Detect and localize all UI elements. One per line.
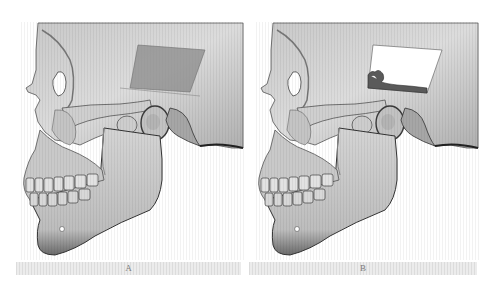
- skull-render-b: [247, 0, 493, 260]
- caption-bar-a: A: [16, 262, 241, 275]
- figure-panel-a: [0, 0, 246, 260]
- figure-panel-b: [247, 0, 493, 260]
- panel-label-b: B: [360, 262, 366, 275]
- skull-render-a: [0, 0, 246, 260]
- panel-label-a: A: [125, 262, 132, 275]
- caption-bar-b: B: [249, 262, 477, 275]
